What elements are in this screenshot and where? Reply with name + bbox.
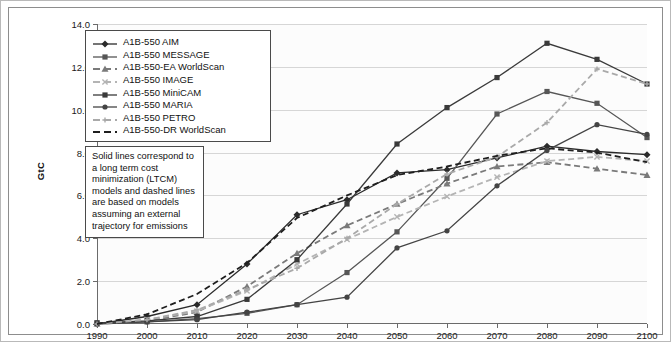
legend-label: A1B-550 MESSAGE	[123, 49, 210, 61]
legend-item-7[interactable]: A1B-550-DR WorldScan	[92, 124, 264, 137]
y-tick-label: 2.0	[77, 276, 90, 287]
data-point	[643, 151, 650, 158]
legend-label: A1B-550-DR WorldScan	[123, 124, 226, 136]
x-tick	[547, 324, 548, 328]
x-tick	[447, 324, 448, 328]
x-tick-label: 2060	[436, 330, 457, 341]
data-point	[294, 302, 299, 307]
data-point	[494, 75, 499, 80]
x-tick	[347, 324, 348, 328]
data-point	[344, 295, 349, 300]
x-tick	[497, 324, 498, 328]
annotation-box: Solid lines correspond to a long term co…	[85, 146, 204, 238]
data-point	[544, 89, 549, 94]
legend-item-1[interactable]: A1B-550 MESSAGE	[92, 49, 264, 62]
legend-item-0[interactable]: A1B-550 AIM	[92, 36, 264, 49]
data-point	[294, 257, 299, 262]
data-point	[594, 122, 599, 127]
chart-figure: GtC 0.02.04.06.08.010.012.014.0 19902000…	[0, 0, 671, 342]
x-tick-label: 2080	[536, 330, 557, 341]
legend-label: A1B-550-EA WorldScan	[123, 61, 224, 73]
x-tick-label: 2020	[236, 330, 257, 341]
data-point	[544, 41, 549, 46]
legend-item-5[interactable]: A1B-550 MARIA	[92, 99, 264, 112]
chart-legend: A1B-550 AIMA1B-550 MESSAGEA1B-550-EA Wor…	[85, 30, 271, 142]
legend-swatch-icon	[92, 49, 118, 61]
data-point	[394, 229, 399, 234]
legend-item-2[interactable]: A1B-550-EA WorldScan	[92, 61, 264, 74]
legend-item-3[interactable]: A1B-550 IMAGE	[92, 74, 264, 87]
y-tick-label: 14.0	[72, 19, 91, 30]
x-tick	[647, 324, 648, 328]
x-tick	[297, 324, 298, 328]
legend-swatch-icon	[92, 124, 118, 136]
data-point	[644, 132, 649, 137]
x-tick	[197, 324, 198, 328]
legend-label: A1B-550 MARIA	[123, 99, 193, 111]
chart-frame: GtC 0.02.04.06.08.010.012.014.0 19902000…	[8, 7, 663, 335]
x-tick-label: 2090	[586, 330, 607, 341]
annotation-text: Solid lines correspond to a long term co…	[92, 151, 198, 232]
x-tick-label: 2050	[386, 330, 407, 341]
data-point	[444, 105, 449, 110]
data-point	[594, 57, 599, 62]
data-point	[394, 141, 399, 146]
x-tick	[147, 324, 148, 328]
y-tick-label: 0.0	[77, 319, 90, 330]
x-tick-label: 2010	[186, 330, 207, 341]
legend-label: A1B-550 AIM	[123, 36, 179, 48]
legend-swatch-icon	[92, 87, 118, 99]
x-tick-label: 2070	[486, 330, 507, 341]
x-tick	[397, 324, 398, 328]
data-point	[244, 310, 249, 315]
legend-label: A1B-550 IMAGE	[123, 74, 193, 86]
x-tick-label: 2030	[286, 330, 307, 341]
legend-swatch-icon	[92, 36, 118, 48]
legend-swatch-icon	[92, 61, 118, 73]
legend-swatch-icon	[92, 99, 118, 111]
data-point	[494, 111, 499, 116]
x-tick-label: 2040	[336, 330, 357, 341]
legend-swatch-icon	[92, 112, 118, 124]
legend-label: A1B-550 PETRO	[123, 112, 195, 124]
data-point	[394, 245, 399, 250]
data-point	[244, 297, 249, 302]
x-tick	[597, 324, 598, 328]
x-tick	[247, 324, 248, 328]
legend-swatch-icon	[92, 74, 118, 86]
y-axis-title: GtC	[35, 162, 46, 180]
x-tick-label: 1990	[86, 330, 107, 341]
data-point	[444, 228, 449, 233]
data-point	[344, 270, 349, 275]
legend-item-6[interactable]: A1B-550 PETRO	[92, 112, 264, 125]
legend-label: A1B-550 MiniCAM	[123, 87, 201, 99]
legend-item-4[interactable]: A1B-550 MiniCAM	[92, 86, 264, 99]
data-point	[494, 183, 499, 188]
data-point	[594, 101, 599, 106]
data-point	[194, 317, 199, 322]
x-tick-label: 2000	[136, 330, 157, 341]
data-point	[344, 201, 349, 206]
x-tick-label: 2100	[636, 330, 657, 341]
